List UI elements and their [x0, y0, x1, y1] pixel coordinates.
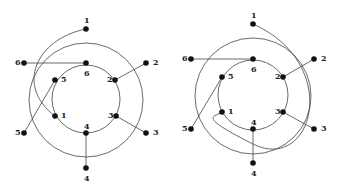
inner-node-1	[219, 109, 225, 115]
outer-node-3	[143, 130, 149, 136]
inner-node-label: 6	[84, 68, 90, 78]
inner-node-2	[112, 77, 118, 83]
inner-node-label: 3	[108, 110, 114, 120]
inner-node-label: 2	[107, 74, 113, 84]
right-graph-diagram: 123456623415	[182, 10, 327, 178]
outer-node-1	[250, 21, 256, 27]
inner-node-5	[52, 77, 58, 83]
outer-node-label: 3	[153, 127, 159, 137]
outer-node-6	[188, 56, 194, 62]
outer-node-label: 2	[153, 57, 159, 67]
inner-node-label: 4	[84, 121, 90, 131]
inner-node-label: 5	[228, 71, 234, 81]
inner-node-label: 2	[275, 71, 281, 81]
outer-node-label: 6	[15, 57, 21, 67]
outer-node-3	[311, 126, 317, 132]
outer-node-label: 5	[15, 127, 21, 137]
outer-node-label: 1	[84, 15, 90, 25]
inner-node-label: 5	[61, 74, 67, 84]
inner-node-label: 6	[251, 64, 257, 74]
edge-outer-5-inner-5	[24, 80, 55, 133]
inner-node-4	[250, 126, 256, 132]
outer-node-label: 2	[321, 53, 327, 63]
inner-node-label: 1	[61, 110, 67, 120]
inner-node-5	[219, 74, 225, 80]
inner-node-1	[52, 113, 58, 119]
inner-node-label: 4	[251, 117, 257, 127]
outer-node-5	[188, 126, 194, 132]
outer-node-label: 6	[182, 53, 188, 63]
graph-figure: 123456623415 123456623415	[0, 0, 342, 190]
outer-node-label: 5	[182, 123, 188, 133]
outer-node-label: 4	[251, 168, 257, 178]
outer-node-2	[311, 56, 317, 62]
edge-outer-3-inner-3	[283, 112, 314, 129]
inner-node-4	[83, 130, 89, 136]
outer-node-2	[143, 60, 149, 66]
inner-node-6	[83, 60, 89, 66]
inner-node-3	[280, 109, 286, 115]
left-graph-diagram: 123456623415	[15, 15, 159, 183]
outer-node-label: 3	[321, 123, 327, 133]
inner-node-6	[250, 56, 256, 62]
inner-node-label: 1	[228, 106, 234, 116]
inner-node-3	[113, 113, 119, 119]
inner-node-2	[280, 74, 286, 80]
outer-node-4	[250, 160, 256, 166]
outer-node-5	[21, 130, 27, 136]
outer-node-4	[83, 165, 89, 171]
outer-node-6	[21, 60, 27, 66]
outer-node-1	[83, 26, 89, 32]
edge-outer-2-inner-2	[115, 63, 146, 80]
inner-node-label: 3	[275, 106, 281, 116]
edge-outer-3-inner-3	[116, 116, 146, 133]
edge-curve-outer-1-inner-1	[213, 24, 310, 149]
outer-node-label: 4	[84, 173, 90, 183]
edge-curve-outer-1-inner-1	[34, 29, 86, 116]
outer-node-label: 1	[251, 10, 257, 20]
